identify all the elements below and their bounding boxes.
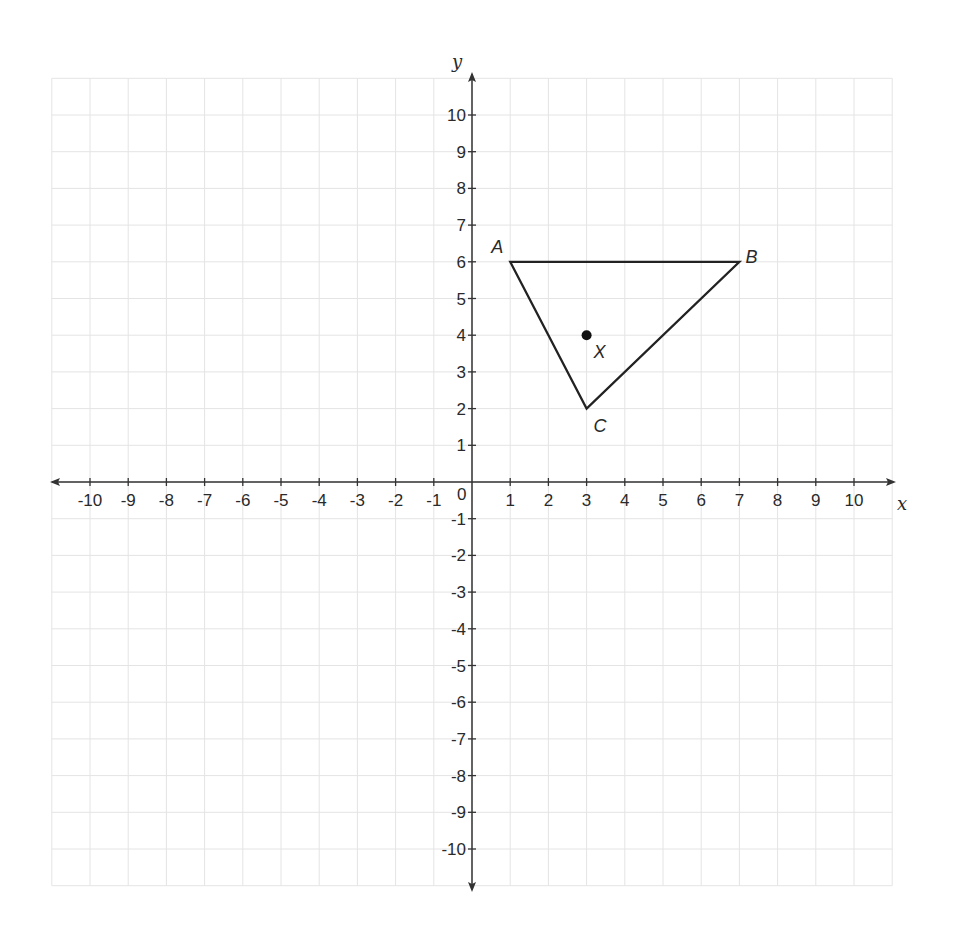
y-tick-label: -2	[451, 546, 466, 565]
x-tick-label: -6	[235, 491, 250, 510]
x-tick-label: 4	[620, 491, 629, 510]
x-tick-label: 10	[845, 491, 864, 510]
x-tick-label: 3	[582, 491, 591, 510]
x-tick-label: -3	[350, 491, 365, 510]
x-axis-label: x	[897, 493, 907, 514]
x-tick-label: 7	[735, 491, 744, 510]
y-tick-label: 7	[457, 216, 466, 235]
y-tick-label: -10	[441, 840, 466, 859]
y-tick-label: -6	[451, 693, 466, 712]
y-tick-label: 10	[447, 106, 466, 125]
x-tick-label: -2	[388, 491, 403, 510]
y-tick-label: 1	[457, 436, 466, 455]
coordinate-plane: -10-9-8-7-6-5-4-3-2-11234567891010987654…	[0, 0, 958, 930]
y-tick-label: -5	[451, 657, 466, 676]
y-tick-label: -9	[451, 803, 466, 822]
x-tick-label: -8	[159, 491, 174, 510]
point-x-dot	[582, 330, 592, 340]
x-tick-label: -5	[273, 491, 288, 510]
vertex-label-b: B	[745, 247, 757, 267]
origin-label: 0	[457, 485, 466, 504]
vertex-label-a: A	[490, 237, 503, 257]
x-tick-label: -7	[197, 491, 212, 510]
y-tick-label: -1	[451, 510, 466, 529]
x-tick-label: 5	[658, 491, 667, 510]
y-tick-label: 9	[457, 143, 466, 162]
y-tick-label: 3	[457, 363, 466, 382]
y-tick-label: 5	[457, 290, 466, 309]
x-tick-label: 9	[811, 491, 820, 510]
axes	[50, 72, 896, 892]
vertex-label-c: C	[594, 416, 608, 436]
y-tick-label: 2	[457, 400, 466, 419]
y-tick-label: -8	[451, 767, 466, 786]
x-tick-label: 6	[696, 491, 705, 510]
y-tick-label: -7	[451, 730, 466, 749]
x-tick-label: 8	[773, 491, 782, 510]
x-tick-label: -9	[121, 491, 136, 510]
y-tick-label: -3	[451, 583, 466, 602]
x-tick-label: -4	[312, 491, 327, 510]
y-axis-label: y	[451, 51, 463, 72]
y-tick-label: 8	[457, 179, 466, 198]
y-tick-label: -4	[451, 620, 466, 639]
x-tick-label: 1	[505, 491, 514, 510]
y-tick-label: 6	[457, 253, 466, 272]
y-tick-label: 4	[457, 326, 466, 345]
x-tick-label: -1	[426, 491, 441, 510]
x-tick-label: -10	[78, 491, 103, 510]
x-tick-label: 2	[544, 491, 553, 510]
point-label-x: X	[593, 342, 607, 362]
